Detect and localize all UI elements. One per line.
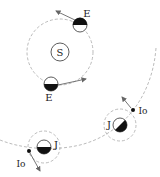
jupiter-orbit xyxy=(0,48,156,149)
earth-bottom: E xyxy=(44,77,86,103)
jupiter-left-label: J xyxy=(53,139,58,150)
orbit-diagram: S E E J Io J Io xyxy=(0,0,160,177)
sun-label: S xyxy=(57,47,64,58)
jupiter-left: J Io xyxy=(17,131,60,171)
sun: S xyxy=(51,43,69,61)
jupiter-right-label: J xyxy=(106,119,111,130)
io-left xyxy=(27,149,31,153)
earth-top-label: E xyxy=(83,8,90,19)
earth-bottom-label: E xyxy=(45,92,52,103)
io-right-velocity-arrow xyxy=(122,97,131,108)
earth-top: E xyxy=(56,8,91,32)
earth-bottom-velocity-arrow xyxy=(58,79,86,85)
io-right xyxy=(131,108,135,112)
jupiter-right: J Io xyxy=(104,97,147,141)
io-left-label: Io xyxy=(17,159,26,169)
io-right-label: Io xyxy=(139,106,148,116)
